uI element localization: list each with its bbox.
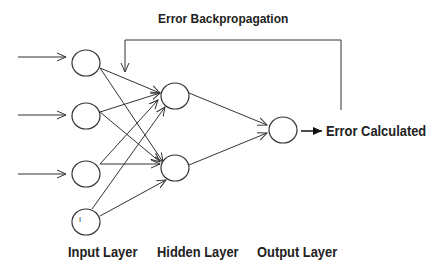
diagram-title: Error Backpropagation	[158, 11, 288, 26]
bias-node-label: I	[79, 215, 81, 224]
output-node	[269, 117, 297, 143]
input-node-1	[72, 50, 100, 76]
bias-node	[72, 209, 100, 235]
hidden-node-1	[161, 83, 189, 109]
hidden-layer-label: Hidden Layer	[157, 244, 239, 260]
hidden-node-2	[161, 155, 189, 181]
input-node-3	[72, 161, 100, 187]
input-layer-label: Input Layer	[68, 244, 137, 260]
output-layer-label: Output Layer	[257, 244, 337, 260]
error-calculated-label: Error Calculated	[326, 123, 426, 139]
input-node-2	[72, 103, 100, 129]
backpropagation-feedback-arrow	[125, 40, 341, 110]
